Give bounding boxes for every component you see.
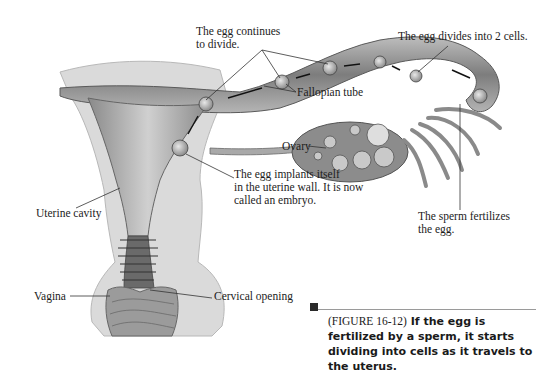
label-egg-implants-line2: in the uterine wall. It is now (234, 181, 363, 194)
label-sperm-fertilizes: The sperm fertilizes the egg. (418, 210, 510, 236)
egg-2-cells (410, 70, 422, 82)
caption-divider (318, 309, 536, 310)
label-fallopian-tube: Fallopian tube (297, 86, 363, 99)
label-sperm-fertilizes-line2: the egg. (418, 223, 510, 236)
figure-caption: (FIGURE 16-12) If the egg is fertilized … (328, 314, 536, 374)
egg-4-cells (374, 56, 386, 68)
figure-reference: (FIGURE 16-12) (328, 315, 407, 327)
egg-blastocyst (199, 97, 213, 111)
embryo-implanted (172, 140, 188, 156)
label-cervical-opening: Cervical opening (214, 290, 293, 303)
egg-morula-2 (275, 75, 289, 89)
label-sperm-fertilizes-line1: The sperm fertilizes (418, 210, 510, 223)
label-egg-continues: The egg continues to divide. (196, 25, 280, 51)
vagina (106, 287, 178, 336)
egg-fertilized (473, 89, 487, 103)
caption-bullet (310, 303, 318, 311)
label-ovary: Ovary (282, 140, 311, 153)
label-egg-implants-line1: The egg implants itself (234, 168, 363, 181)
fimbriae (404, 109, 500, 186)
label-egg-implants-line3: called an embryo. (234, 194, 363, 207)
label-egg-implants: The egg implants itself in the uterine w… (234, 168, 363, 207)
label-egg-continues-line1: The egg continues (196, 25, 280, 38)
label-egg-continues-line2: to divide. (196, 38, 280, 51)
label-uterine-cavity: Uterine cavity (36, 207, 101, 220)
label-egg-divides: The egg divides into 2 cells. (398, 30, 528, 43)
label-vagina: Vagina (34, 290, 66, 303)
